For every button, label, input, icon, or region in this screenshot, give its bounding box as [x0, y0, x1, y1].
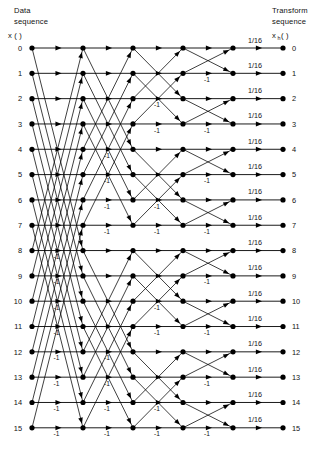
negative-one-label-s1-r13: -1 [104, 380, 110, 387]
node-c1-r11 [80, 324, 85, 329]
node-c3-r12 [180, 349, 185, 354]
stage-1-through-1-arrow [106, 71, 112, 76]
negative-one-label-s1-r12: -1 [104, 354, 110, 361]
stage-0-through-1-arrow [55, 71, 61, 76]
node-c2-r2 [130, 96, 135, 101]
stage-3-cross-13-arrow [223, 371, 229, 376]
negative-one-label-s2-r10: -1 [154, 304, 160, 311]
data-sequence-line1: Data [14, 6, 31, 15]
node-c4-r0 [230, 45, 235, 50]
stage-0-cross-15-arrow [78, 417, 82, 423]
negative-one-label-s3-r5: -1 [204, 177, 210, 184]
node-c4-r8 [230, 248, 235, 253]
transform-sequence-line1: Transform [272, 6, 308, 15]
node-c2-r7 [130, 223, 135, 228]
negative-one-label-s1-r4: -1 [104, 152, 110, 159]
stage-1-cross-1-arrow [126, 77, 131, 83]
negative-one-label-s0-r11: -1 [54, 329, 60, 336]
negative-one-label-s2-r2: -1 [154, 101, 160, 108]
node-c0-r6 [29, 197, 34, 202]
node-c3-r14 [180, 400, 185, 405]
header-labels: Data sequence x ( ) Transform sequence x… [8, 6, 308, 41]
node-c1-r9 [80, 273, 85, 278]
negative-one-label-s3-r1: -1 [204, 76, 210, 83]
node-c0-r1 [29, 71, 34, 76]
stage-3-cross-8-arrow [223, 252, 229, 257]
output-symbol-tail: ( ) [281, 31, 289, 40]
node-c0-r3 [29, 121, 34, 126]
stage-1-cross-10-arrow [126, 305, 131, 311]
node-c0-r9 [29, 273, 34, 278]
stage-1-cross-3-arrow [126, 128, 131, 134]
scale-label-3: 1/16 [248, 111, 262, 120]
negative-one-label-s0-r10: -1 [54, 304, 60, 311]
stage-1-cross-13-arrow [126, 367, 131, 373]
node-c3-r0 [180, 45, 185, 50]
negative-one-label-s1-r15: -1 [104, 430, 110, 437]
stage-0-cross-14-arrow [78, 392, 82, 398]
stage-1-cross-14-arrow [126, 392, 131, 398]
output-index-13: 13 [292, 373, 300, 382]
negative-one-label-s3-r7: -1 [204, 228, 210, 235]
stage-1-cross-9-arrow [126, 280, 131, 286]
output-index-8: 8 [292, 246, 296, 255]
output-index-3: 3 [292, 120, 296, 129]
scale-label-11: 1/16 [248, 314, 262, 323]
negative-one-label-s3-r13: -1 [204, 380, 210, 387]
node-c5-r14 [280, 400, 285, 405]
node-c2-r3 [130, 121, 135, 126]
stage-3-cross-1-arrow [223, 67, 229, 72]
scale-label-14: 1/16 [248, 390, 262, 399]
node-c3-r1 [180, 71, 185, 76]
stage-1-cross-0-arrow [126, 52, 131, 58]
stage-1-cross-7-arrow [126, 215, 131, 221]
output-index-4: 4 [292, 145, 296, 154]
output-edge-11-arrow [256, 324, 262, 329]
stage-3-through-4-arrow [206, 147, 212, 152]
scale-label-9: 1/16 [248, 263, 262, 272]
node-c1-r13 [80, 375, 85, 380]
output-index-10: 10 [292, 297, 300, 306]
stage-1-cross-2-arrow [126, 102, 131, 108]
node-c4-r3 [230, 121, 235, 126]
output-index-15: 15 [292, 424, 300, 433]
node-c1-r2 [80, 96, 85, 101]
stage-0-cross-10-arrow [78, 291, 82, 297]
input-index-15: 15 [14, 424, 22, 433]
node-c5-r2 [280, 96, 285, 101]
stage-0-through-7-arrow [55, 223, 61, 228]
node-c2-r6 [130, 197, 135, 202]
output-edge-1-arrow [256, 71, 262, 76]
output-index-9: 9 [292, 272, 296, 281]
output-index-1: 1 [292, 69, 296, 78]
output-index-14: 14 [292, 398, 300, 407]
stage-0-cross-4-arrow [78, 153, 82, 159]
node-c0-r11 [29, 324, 34, 329]
stage-3-cross-9-arrow [223, 269, 229, 274]
output-edge-0-arrow [256, 46, 262, 51]
stage-3-cross-14-arrow [223, 404, 229, 409]
node-c5-r9 [280, 273, 285, 278]
node-c1-r14 [80, 400, 85, 405]
negative-one-label-s0-r12: -1 [54, 354, 60, 361]
output-edge-2-arrow [256, 96, 262, 101]
node-c3-r5 [180, 172, 185, 177]
node-c3-r4 [180, 147, 185, 152]
negative-one-label-s3-r11: -1 [204, 329, 210, 336]
stage-3-cross-0-arrow [223, 50, 229, 55]
node-c0-r7 [29, 223, 34, 228]
negative-one-label-s3-r3: -1 [204, 127, 210, 134]
output-edge-5-arrow [256, 172, 262, 177]
stage-0-cross-11-arrow [78, 316, 82, 322]
output-symbol: x h ( ) [272, 31, 289, 41]
negative-one-label-s2-r3: -1 [154, 127, 160, 134]
stage-3-cross-4-arrow [223, 151, 229, 156]
node-c0-r14 [29, 400, 34, 405]
negative-one-label-s2-r11: -1 [154, 329, 160, 336]
stage-3-through-14-arrow [206, 400, 212, 405]
node-c5-r10 [280, 299, 285, 304]
node-c3-r11 [180, 324, 185, 329]
node-c3-r2 [180, 96, 185, 101]
input-index-0: 0 [18, 44, 22, 53]
output-edge-10-arrow [256, 299, 262, 304]
